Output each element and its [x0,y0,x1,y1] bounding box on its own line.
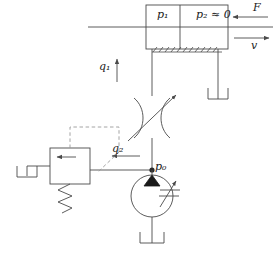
valve-spring [58,184,72,213]
label-force: F [253,2,261,13]
label-p2: p₂ ≈ 0 [196,9,231,20]
label-q1: q₁ [99,61,110,72]
variable-displacement-pump [131,175,180,217]
variable-throttle-valve [128,95,176,141]
label-velocity: v [251,40,257,51]
label-p1: p₁ [157,9,168,20]
pressure-relief-valve [50,148,90,184]
schematic-canvas [0,0,273,260]
hydraulic-circuit-diagram: p₁ p₂ ≈ 0 F v q₁ q₂ p₀ [0,0,273,260]
label-q2: q₂ [112,143,123,154]
relief-outlet-line [27,166,50,176]
label-p0: p₀ [155,161,166,172]
